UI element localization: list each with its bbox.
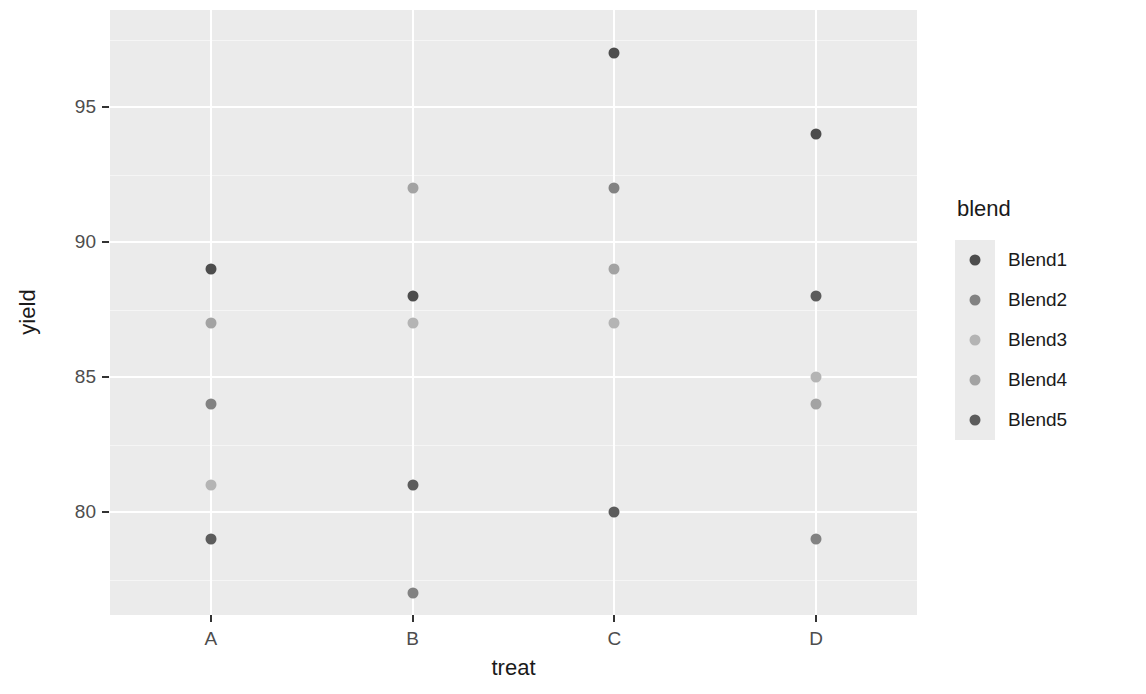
legend-key [955, 360, 995, 400]
legend-key [955, 280, 995, 320]
x-axis-tick-mark [815, 615, 817, 622]
y-axis-tick-mark [102, 106, 109, 108]
data-point [609, 264, 620, 275]
y-axis-tick-mark [102, 511, 109, 513]
x-axis-tick-mark [412, 615, 414, 622]
legend-item-label: Blend2 [1008, 289, 1067, 311]
gridline-major-horizontal [110, 511, 917, 513]
data-point [609, 183, 620, 194]
legend-item-label: Blend4 [1008, 369, 1067, 391]
data-point [811, 129, 822, 140]
data-point [609, 48, 620, 59]
data-point [609, 318, 620, 329]
gridline-major-horizontal [110, 106, 917, 108]
legend-item: Blend2 [955, 280, 1067, 320]
data-point [205, 318, 216, 329]
x-axis-title: treat [110, 655, 917, 681]
legend-item: Blend4 [955, 360, 1067, 400]
data-point [205, 399, 216, 410]
legend-key [955, 400, 995, 440]
legend-items: Blend1Blend2Blend3Blend4Blend5 [955, 240, 1067, 440]
gridline-major-horizontal [110, 376, 917, 378]
x-axis-tick-label: A [205, 628, 218, 650]
gridline-minor-horizontal [110, 310, 917, 311]
legend-key-dot-icon [970, 255, 981, 266]
legend-item-label: Blend1 [1008, 249, 1067, 271]
legend-item: Blend5 [955, 400, 1067, 440]
data-point [811, 534, 822, 545]
data-point [407, 480, 418, 491]
data-point [407, 183, 418, 194]
y-axis-tick-mark [102, 241, 109, 243]
gridline-minor-horizontal [110, 175, 917, 176]
legend-title: blend [955, 196, 1067, 222]
gridline-major-horizontal [110, 241, 917, 243]
data-point [609, 507, 620, 518]
gridline-major-vertical [613, 10, 615, 615]
legend-key-dot-icon [970, 335, 981, 346]
data-point [407, 318, 418, 329]
data-point [407, 588, 418, 599]
gridline-minor-horizontal [110, 445, 917, 446]
x-axis-tick-label: B [406, 628, 419, 650]
x-axis-tick-label: D [809, 628, 823, 650]
gridline-major-vertical [412, 10, 414, 615]
data-point [811, 399, 822, 410]
data-point [205, 480, 216, 491]
data-point [811, 372, 822, 383]
y-axis-tick-label: 85 [75, 366, 96, 388]
x-axis-tick-mark [613, 615, 615, 622]
data-point [205, 534, 216, 545]
legend-key [955, 320, 995, 360]
data-point [811, 291, 822, 302]
y-axis-tick-label: 95 [75, 96, 96, 118]
y-axis-tick-label: 90 [75, 231, 96, 253]
legend-key-dot-icon [970, 375, 981, 386]
gridline-major-vertical [815, 10, 817, 615]
data-point [205, 264, 216, 275]
legend-item: Blend3 [955, 320, 1067, 360]
data-point [407, 291, 418, 302]
legend-key [955, 240, 995, 280]
scatter-plot-figure: 80859095 ABCD treat yield blend Blend1Bl… [0, 0, 1146, 694]
gridline-major-vertical [210, 10, 212, 615]
plot-panel [110, 10, 917, 615]
legend-key-dot-icon [970, 295, 981, 306]
legend-item-label: Blend3 [1008, 329, 1067, 351]
legend: blend Blend1Blend2Blend3Blend4Blend5 [955, 196, 1067, 440]
gridline-minor-horizontal [110, 40, 917, 41]
legend-item-label: Blend5 [1008, 409, 1067, 431]
y-axis-title: yield [15, 289, 41, 334]
x-axis-tick-mark [210, 615, 212, 622]
legend-item: Blend1 [955, 240, 1067, 280]
y-axis-tick-mark [102, 376, 109, 378]
y-axis-tick-label: 80 [75, 501, 96, 523]
legend-key-dot-icon [970, 415, 981, 426]
gridline-minor-horizontal [110, 580, 917, 581]
x-axis-tick-label: C [608, 628, 622, 650]
